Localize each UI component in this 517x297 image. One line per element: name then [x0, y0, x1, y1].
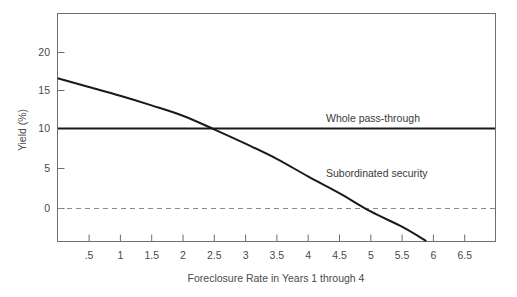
x-tick-label-5: 5: [368, 249, 374, 261]
chart-figure: 20 15 10 5 0 Yield (%) .5 1: [0, 0, 517, 297]
y-tick-label-0: 0: [44, 202, 50, 214]
chart-plot-area: 20 15 10 5 0 Yield (%) .5 1: [0, 0, 517, 297]
x-tick-label-4.5: 4.5: [332, 249, 347, 261]
x-tick-label-1.5: 1.5: [144, 249, 159, 261]
y-tick-label-15: 15: [38, 84, 50, 96]
x-axis-ticks: [89, 235, 465, 242]
y-axis-ticks: [58, 53, 65, 209]
x-tick-label-6: 6: [430, 249, 436, 261]
x-tick-label-2.5: 2.5: [207, 249, 222, 261]
x-tick-label-3.5: 3.5: [270, 249, 285, 261]
y-axis-tick-labels: 20 15 10 5 0: [38, 46, 50, 214]
x-axis-title: Foreclosure Rate in Years 1 through 4: [188, 272, 365, 284]
y-tick-label-5: 5: [44, 162, 50, 174]
x-tick-label-6.5: 6.5: [457, 249, 472, 261]
x-tick-label-2: 2: [180, 249, 186, 261]
y-tick-label-10: 10: [38, 122, 50, 134]
x-axis-tick-labels: .5 1 1.5 2 2.5 3 3.5 4 4.5 5 5.5 6 6.5: [85, 249, 472, 261]
x-tick-label-4: 4: [305, 249, 311, 261]
x-tick-label-3: 3: [243, 249, 249, 261]
annotation-subordinated-security: Subordinated security: [326, 167, 428, 179]
annotation-whole-pass-through: Whole pass-through: [326, 112, 420, 124]
y-axis-title: Yield (%): [16, 109, 28, 151]
y-tick-label-20: 20: [38, 46, 50, 58]
x-tick-label-5.5: 5.5: [395, 249, 410, 261]
series-line-subordinated-security: [58, 78, 427, 241]
x-tick-label-0.5: .5: [85, 249, 94, 261]
x-tick-label-1: 1: [117, 249, 123, 261]
